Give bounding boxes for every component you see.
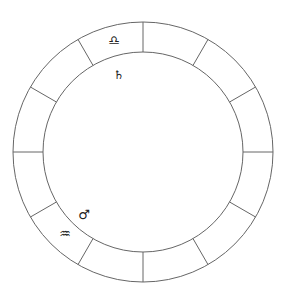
house-divider (193, 239, 208, 265)
house-divider (230, 202, 256, 217)
inner-ring (43, 52, 243, 252)
chart-wheel (0, 0, 285, 297)
aquarius-icon: ♒ (59, 227, 71, 240)
house-divider (78, 239, 93, 265)
libra-icon: ♎ (108, 34, 120, 47)
house-divider (193, 39, 208, 65)
house-divider (30, 87, 56, 102)
outer-ring (13, 22, 273, 282)
house-dividers (13, 22, 273, 282)
mars-icon: ♂ (78, 208, 90, 221)
saturn-icon: ♄ (114, 69, 125, 81)
house-divider (230, 87, 256, 102)
house-divider (78, 39, 93, 65)
house-divider (30, 202, 56, 217)
